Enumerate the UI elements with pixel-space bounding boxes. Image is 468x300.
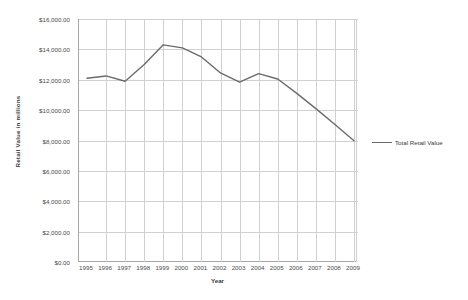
x-axis-tick-label: 2003 (232, 264, 246, 271)
x-axis-tick-label: 2001 (194, 264, 208, 271)
x-axis-title: Year (78, 277, 357, 284)
y-axis-tick-label: $2,000.00 (42, 228, 70, 235)
y-axis-tick-label: $14,000.00 (39, 46, 70, 53)
x-axis-tick-label: 2004 (251, 264, 265, 271)
legend-line-icon (372, 142, 392, 143)
x-axis-tick-label: 1996 (98, 264, 112, 271)
legend-label-total-retail-value: Total Retail Value (395, 139, 443, 146)
x-axis-tick-label: 2006 (289, 264, 303, 271)
x-axis-tick-label: 1995 (79, 264, 93, 271)
x-axis-tick-label: 2002 (213, 264, 227, 271)
x-axis-tick-label: 2008 (327, 264, 341, 271)
series-line-total-retail-value (79, 19, 358, 262)
y-axis-tick-label: $16,000.00 (39, 16, 70, 23)
x-axis-tick-label: 2005 (270, 264, 284, 271)
chart-legend: Total Retail Value (372, 139, 443, 146)
chart-container: Retail Value in millions $0.00$2,000.00$… (0, 0, 468, 300)
y-axis-tick-label: $4,000.00 (42, 198, 70, 205)
y-axis-tick-label: $6,000.00 (42, 167, 70, 174)
x-axis-tick-label: 2007 (308, 264, 322, 271)
y-axis-tick-label: $10,000.00 (39, 107, 70, 114)
x-axis-tick-label: 1999 (155, 264, 169, 271)
y-axis-tick-label: $8,000.00 (42, 137, 70, 144)
y-axis-tick-label: $0.00 (55, 259, 70, 266)
y-axis-tick-labels: $0.00$2,000.00$4,000.00$6,000.00$8,000.0… (0, 0, 74, 300)
plot-area (78, 19, 357, 262)
data-line (87, 45, 354, 141)
y-axis-tick-label: $12,000.00 (39, 76, 70, 83)
x-axis-tick-label: 2000 (174, 264, 188, 271)
x-axis-tick-label: 1997 (117, 264, 131, 271)
x-axis-tick-label: 1998 (136, 264, 150, 271)
x-axis-tick-label: 2009 (346, 264, 360, 271)
